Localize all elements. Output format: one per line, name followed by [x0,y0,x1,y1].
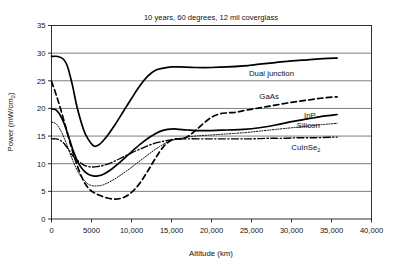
ytick-label-15: 15 [37,132,45,141]
ytick-label-10: 10 [37,160,45,169]
ytick-label-25: 25 [37,77,45,86]
xtick-label-40000: 40,000 [360,226,383,235]
ytick-label-5: 5 [41,187,45,196]
ytick-label-0: 0 [41,215,45,224]
xtick-label-10000: 10,000 [120,226,143,235]
series-label-gaas: GaAs [259,92,279,101]
series-label-silicon: Silicon [297,121,320,130]
ytick-label-35: 35 [37,21,45,30]
series-label-inp: InP [304,111,316,120]
xtick-label-20000: 20,000 [200,226,223,235]
ytick-label-20: 20 [37,104,45,113]
xtick-label-30000: 30,000 [280,226,303,235]
xtick-label-25000: 25,000 [240,226,263,235]
xtick-label-15000: 15,000 [160,226,183,235]
x-axis-tick-labels: 0500010,00015,00020,00025,00030,00035,00… [49,226,383,235]
chart-title: 10 years, 60 degrees, 12 mil coverglass [144,13,278,22]
y-axis-label: Power (mW/cm2) [6,92,16,151]
ytick-label-30: 30 [37,49,45,58]
power-vs-altitude-chart: 10 years, 60 degrees, 12 mil coverglass … [0,0,398,265]
xtick-label-35000: 35,000 [320,226,343,235]
chart-figure: 10 years, 60 degrees, 12 mil coverglass … [0,0,398,265]
xtick-label-0: 0 [49,226,53,235]
series-label-cuinse2: CuInSe2 [291,143,320,153]
series-label-dual-junction: Dual junction [249,69,294,78]
xtick-label-5000: 5000 [83,226,100,235]
x-axis-label: Altitude (km) [189,249,233,258]
